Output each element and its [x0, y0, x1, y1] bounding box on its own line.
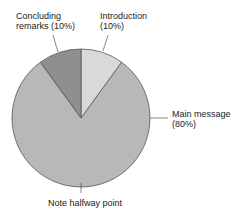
label-introduction: Introduction (10%) — [100, 11, 147, 31]
label-main-message: Main message (80%) — [172, 109, 231, 129]
label-text: remarks (10%) — [16, 21, 75, 31]
label-text: Note halfway point — [48, 198, 122, 208]
label-concluding-remarks: Concluding remarks (10%) — [16, 11, 75, 31]
label-text: (10%) — [100, 21, 147, 31]
label-text: Main message — [172, 109, 231, 119]
label-text: Introduction — [100, 11, 147, 21]
label-text: (80%) — [172, 119, 231, 129]
leader-concluding — [53, 35, 58, 52]
label-text: Concluding — [16, 11, 75, 21]
leader-introduction — [103, 35, 108, 51]
label-halfway-point: Note halfway point — [48, 198, 122, 208]
